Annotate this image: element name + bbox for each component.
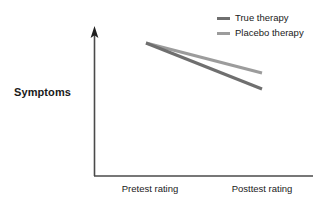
legend-label-true-therapy: True therapy bbox=[235, 12, 289, 24]
legend-item-true-therapy: True therapy bbox=[217, 12, 304, 24]
y-axis-title: Symptoms bbox=[14, 86, 71, 98]
chart-figure: Symptoms Pretest rating Posttest rating … bbox=[0, 0, 328, 211]
series-line-placebo-therapy bbox=[146, 43, 262, 73]
chart-legend: True therapy Placebo therapy bbox=[217, 12, 304, 39]
legend-item-placebo-therapy: Placebo therapy bbox=[217, 27, 304, 39]
x-tick-label-posttest: Posttest rating bbox=[221, 183, 303, 194]
legend-label-placebo-therapy: Placebo therapy bbox=[235, 27, 304, 39]
legend-swatch-icon-placebo-therapy bbox=[217, 32, 230, 35]
x-tick-label-pretest: Pretest rating bbox=[112, 183, 188, 194]
series-line-true-therapy bbox=[146, 43, 262, 89]
legend-swatch-icon-true-therapy bbox=[217, 17, 230, 20]
